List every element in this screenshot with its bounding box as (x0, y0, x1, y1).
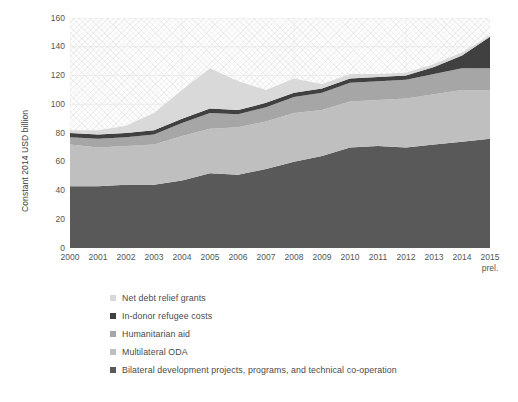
y-axis-tick-label: 40 (35, 186, 65, 195)
legend-item[interactable]: Bilateral development projects, programs… (110, 361, 510, 379)
x-axis-tick-sublabel: prel. (470, 263, 510, 274)
y-axis-tick-label: 100 (35, 100, 65, 109)
chart-figure: Constant 2014 USD billion 02040608010012… (0, 0, 518, 402)
x-axis-tick-label: 2015prel. (470, 252, 510, 274)
legend-item-label: Net debt relief grants (122, 293, 206, 303)
legend-swatch-icon (110, 367, 116, 373)
y-axis-tick-labels: 020406080100120140160 (33, 18, 65, 248)
legend-swatch-icon (110, 295, 116, 301)
y-axis-tick-label: 60 (35, 157, 65, 166)
legend-swatch-icon (110, 313, 116, 319)
legend-item-label: Humanitarian aid (122, 329, 190, 339)
y-axis-tick-label: 20 (35, 215, 65, 224)
chart-legend: Net debt relief grantsIn-donor refugee c… (110, 289, 510, 379)
y-axis-tick-label: 160 (35, 14, 65, 23)
legend-item-label: In-donor refugee costs (122, 311, 212, 321)
legend-item[interactable]: In-donor refugee costs (110, 307, 510, 325)
plot-area (70, 18, 490, 248)
legend-swatch-icon (110, 331, 116, 337)
stacked-area-series (70, 18, 490, 248)
legend-item-label: Bilateral development projects, programs… (122, 365, 397, 375)
y-axis-tick-label: 140 (35, 42, 65, 51)
legend-item[interactable]: Net debt relief grants (110, 289, 510, 307)
x-axis-tick-labels: 2000200120022003200420052006200720082009… (70, 252, 490, 286)
y-axis-tick-label: 120 (35, 71, 65, 80)
legend-item-label: Multilateral ODA (122, 347, 188, 357)
y-axis-title-text: Constant 2014 USD billion (20, 62, 30, 212)
legend-item[interactable]: Multilateral ODA (110, 343, 510, 361)
legend-item[interactable]: Humanitarian aid (110, 325, 510, 343)
y-axis-tick-label: 80 (35, 129, 65, 138)
legend-swatch-icon (110, 349, 116, 355)
y-axis-title: Constant 2014 USD billion (20, 0, 34, 60)
